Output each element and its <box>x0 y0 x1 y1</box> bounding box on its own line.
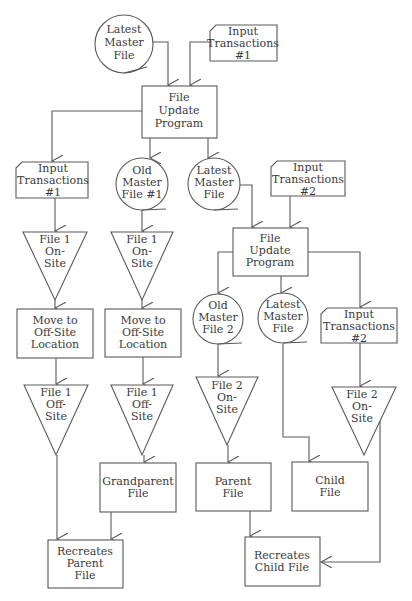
label: Site <box>44 257 66 270</box>
file-2-on-site-b: File 2 On- Site <box>332 387 396 455</box>
label: #1 <box>235 49 251 62</box>
col-a-move-to-offsite: Move to Off-Site Location <box>17 309 93 358</box>
label: File <box>203 188 224 201</box>
label: File #1 <box>122 188 163 201</box>
label: File 2 <box>202 323 234 336</box>
col-a-file-1-on-site: File 1 On- Site <box>23 232 87 300</box>
grandparent-file: Grandparent File <box>100 463 176 512</box>
label: Site <box>351 412 373 425</box>
label: Program <box>155 117 204 130</box>
col-c-latest-master-file: Latest Master File <box>188 158 240 210</box>
col-b-old-master-file-1: Old Master File #1 <box>116 158 168 210</box>
label: #2 <box>351 332 367 345</box>
connector-latest-master-to-child <box>283 344 309 461</box>
label: Update <box>159 104 200 117</box>
label: File <box>168 91 189 104</box>
old-master-file-2: Old Master File 2 <box>193 294 243 344</box>
col-b-move-to-offsite: Move to Off-Site Location <box>105 309 181 357</box>
label: #2 <box>300 185 316 198</box>
label: File <box>113 49 134 62</box>
child-file: Child File <box>292 462 368 511</box>
connector-fup1-to-input-a <box>52 111 142 161</box>
label: Master <box>104 36 144 49</box>
label: File <box>74 569 95 582</box>
connector-top-master-to-fup1 <box>152 42 168 85</box>
file-update-program-2: File Update Program <box>233 228 308 276</box>
label: Site <box>45 410 67 423</box>
label: Location <box>119 338 167 351</box>
col-a-file-1-off-site: File 1 Off- Site <box>24 385 88 455</box>
parent-file: Parent File <box>196 463 271 511</box>
col-b-file-1-off-site: File 1 Off- Site <box>111 385 173 455</box>
label: Location <box>31 338 79 351</box>
label: Site <box>131 410 153 423</box>
sub-input-transactions-2: Input Transactions #2 <box>321 308 397 345</box>
label: Child File <box>255 561 309 574</box>
recreates-child-file: Recreates Child File <box>245 537 320 586</box>
label: Program <box>246 256 295 269</box>
backup-flow-diagram: Latest Master File Input Transactions #1… <box>0 0 412 601</box>
col-a-input-transactions-1: Input Transactions #1 <box>16 162 89 199</box>
label: File <box>272 322 293 335</box>
sub-latest-master-file: Latest Master File <box>258 293 308 343</box>
top-latest-master-file: Latest Master File <box>95 15 153 73</box>
connector-fup2-to-old-master-2 <box>218 252 233 293</box>
label: File <box>319 486 340 499</box>
label: File <box>127 487 148 500</box>
recreates-parent-file: Recreates Parent File <box>48 540 123 588</box>
label: #1 <box>45 186 61 199</box>
label: File <box>222 487 243 500</box>
file-2-on-site-a: File 2 On- Site <box>196 377 258 445</box>
label: Latest <box>107 23 142 36</box>
label: Site <box>216 403 238 416</box>
label: Site <box>131 257 153 270</box>
connector-fup2-to-input2-sub <box>308 252 360 307</box>
top-input-transactions-1: Input Transactions #1 <box>207 25 279 62</box>
col-b-file-1-on-site: File 1 On- Site <box>111 232 173 300</box>
connector-latest-master-to-fup2 <box>240 185 252 227</box>
col-c-input-transactions-2: Input Transactions #2 <box>271 161 345 198</box>
file-update-program-1: File Update Program <box>142 86 217 138</box>
